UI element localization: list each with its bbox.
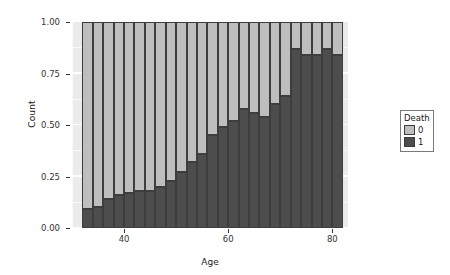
- legend-item: 1: [404, 136, 430, 148]
- y-axis-tick-label: 1.00: [24, 17, 60, 27]
- bar-segment-death-1: [301, 55, 311, 228]
- x-axis-tick-label: 60: [208, 234, 248, 244]
- bar: [124, 22, 134, 228]
- bar-segment-death-0: [291, 22, 301, 49]
- bar: [228, 22, 238, 228]
- bar: [166, 22, 176, 228]
- x-axis-tick-label: 40: [104, 234, 144, 244]
- bar-segment-death-1: [259, 117, 269, 228]
- bar-segment-death-0: [270, 22, 280, 104]
- bar: [114, 22, 124, 228]
- legend-key-swatch-icon: [404, 137, 415, 147]
- bar-segment-death-0: [114, 22, 124, 195]
- y-axis-tick-label: 0.25: [24, 172, 60, 182]
- bar-segment-death-1: [114, 195, 124, 228]
- bar: [145, 22, 155, 228]
- x-axis-tick-mark: [332, 229, 333, 233]
- x-axis-tick-mark: [228, 229, 229, 233]
- bar-segment-death-1: [291, 49, 301, 228]
- bar-segment-death-1: [270, 104, 280, 228]
- bar: [280, 22, 290, 228]
- bar-segment-death-0: [280, 22, 290, 96]
- bar-segment-death-1: [228, 121, 238, 228]
- chart-figure: Count 0.000.250.500.751.00 Age Death 01 …: [0, 0, 450, 275]
- bar: [249, 22, 259, 228]
- x-axis-title: Age: [72, 257, 348, 267]
- bar-segment-death-1: [155, 187, 165, 228]
- bar: [322, 22, 332, 228]
- y-axis-tick-mark: [66, 74, 70, 75]
- y-axis-tick-mark: [66, 177, 70, 178]
- bar-segment-death-0: [145, 22, 155, 191]
- bar-segment-death-1: [280, 96, 290, 228]
- legend-key-swatch-icon: [404, 125, 415, 135]
- bar: [93, 22, 103, 228]
- bar: [312, 22, 322, 228]
- bar-series-group: [72, 22, 348, 228]
- bar-segment-death-1: [145, 191, 155, 228]
- bar-segment-death-0: [207, 22, 217, 135]
- bar: [332, 22, 342, 228]
- y-axis-tick-mark: [66, 125, 70, 126]
- bar-segment-death-0: [218, 22, 228, 127]
- bar-segment-death-1: [82, 209, 92, 228]
- bar-segment-death-1: [332, 55, 342, 228]
- bar-segment-death-1: [134, 191, 144, 228]
- bar: [82, 22, 92, 228]
- bar: [155, 22, 165, 228]
- bar-segment-death-0: [228, 22, 238, 121]
- bar: [197, 22, 207, 228]
- bar: [301, 22, 311, 228]
- bar-segment-death-0: [155, 22, 165, 187]
- bar-segment-death-0: [312, 22, 322, 55]
- bar-segment-death-1: [312, 55, 322, 228]
- y-axis-tick-mark: [66, 22, 70, 23]
- bar: [103, 22, 113, 228]
- bar-segment-death-0: [82, 22, 92, 209]
- legend-item-label: 0: [418, 125, 423, 135]
- plot-panel: [72, 22, 348, 228]
- bar-segment-death-1: [239, 109, 249, 228]
- bar: [134, 22, 144, 228]
- bar: [239, 22, 249, 228]
- legend-items: 01: [404, 124, 430, 148]
- bar-segment-death-0: [134, 22, 144, 191]
- bar-segment-death-1: [322, 49, 332, 228]
- bar-segment-death-0: [322, 22, 332, 49]
- bar-segment-death-0: [187, 22, 197, 162]
- bar-segment-death-0: [259, 22, 269, 117]
- bar-segment-death-0: [239, 22, 249, 109]
- x-axis-tick-label: 80: [312, 234, 352, 244]
- bar: [270, 22, 280, 228]
- bar-segment-death-0: [124, 22, 134, 193]
- y-axis-tick-label: 0.00: [24, 223, 60, 233]
- bar-segment-death-0: [166, 22, 176, 181]
- bar-segment-death-1: [166, 181, 176, 228]
- bar: [259, 22, 269, 228]
- bar-segment-death-1: [176, 172, 186, 228]
- bar: [218, 22, 228, 228]
- bar-segment-death-1: [197, 154, 207, 228]
- bar: [176, 22, 186, 228]
- y-axis-tick-label: 0.50: [24, 120, 60, 130]
- bar-segment-death-0: [103, 22, 113, 199]
- bar-segment-death-0: [197, 22, 207, 154]
- bar-segment-death-0: [249, 22, 259, 113]
- bar-segment-death-0: [301, 22, 311, 55]
- bar-segment-death-1: [93, 207, 103, 228]
- y-axis-tick-mark: [66, 228, 70, 229]
- y-axis-tick-label: 0.75: [24, 69, 60, 79]
- bar-segment-death-0: [93, 22, 103, 207]
- bar-segment-death-1: [103, 199, 113, 228]
- bar-segment-death-1: [218, 127, 228, 228]
- bar: [187, 22, 197, 228]
- legend-item: 0: [404, 124, 430, 136]
- legend-item-label: 1: [418, 137, 423, 147]
- bar-segment-death-1: [124, 193, 134, 228]
- y-axis-tick-labels: 0.000.250.500.751.00: [18, 0, 60, 275]
- legend: Death 01: [400, 110, 434, 152]
- bar: [291, 22, 301, 228]
- x-axis-tick-mark: [124, 229, 125, 233]
- bar-segment-death-0: [176, 22, 186, 172]
- bar-segment-death-0: [332, 22, 342, 55]
